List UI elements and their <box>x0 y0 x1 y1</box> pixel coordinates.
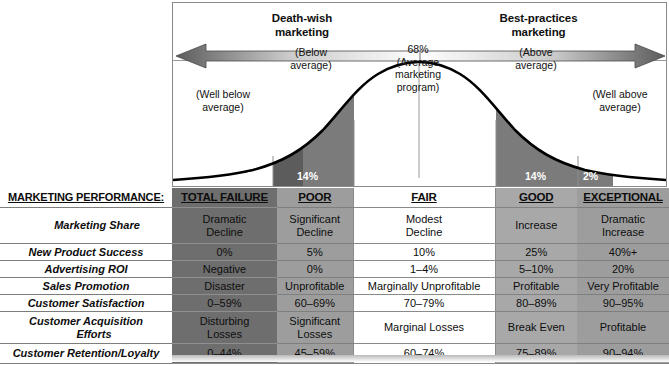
table-cell: DramaticDecline <box>172 208 277 244</box>
caption-center-percent: 68% <box>407 43 428 55</box>
caption-center-line2: (Average <box>397 56 439 68</box>
table-row: New Product Success0%5%10%25%40%+ <box>0 244 669 261</box>
caption-well-above-average: (Well above average) <box>571 88 667 113</box>
death-wish-line2: marketing <box>275 26 329 38</box>
table-cell: 40%+ <box>577 244 669 261</box>
row-label-line1: Customer Acquisition <box>0 315 172 328</box>
cell-line2: Losses <box>277 328 353 341</box>
table-body: MARKETING PERFORMANCE:TOTAL FAILUREPOORF… <box>0 188 669 364</box>
cell-line2: Decline <box>277 226 353 239</box>
table-cell: 90–95% <box>577 295 669 312</box>
table-cell: Profitable <box>577 312 669 344</box>
bell-curve-chart: Death-wish marketing Best-practices mark… <box>172 2 667 187</box>
row-label-customer-retention-loyalty: Customer Retention/Loyalty <box>0 344 172 364</box>
table-cell: Unprofitable <box>277 278 353 295</box>
row-label-sales-promotion: Sales Promotion <box>0 278 172 295</box>
best-practices-line1: Best-practices <box>500 12 578 24</box>
table-cell: 0–59% <box>172 295 277 312</box>
cell-line2: Decline <box>172 226 277 239</box>
table-cell: 1–4% <box>353 261 495 278</box>
cell-line2: Losses <box>172 328 277 341</box>
caption-above-average: (Above average) <box>493 46 579 71</box>
caption-average-marketing-program: 68% (Average marketing program) <box>359 43 477 93</box>
column-header-good: GOOD <box>495 188 577 208</box>
column-header-marketing-performance: MARKETING PERFORMANCE: <box>0 188 172 208</box>
table-cell: Very Profitable <box>577 278 669 295</box>
table-cell: Break Even <box>495 312 577 344</box>
table-cell: 5–10% <box>495 261 577 278</box>
table-cell: 0% <box>277 261 353 278</box>
table-cell: Disaster <box>172 278 277 295</box>
pct-label-far-left: 2% <box>247 170 262 182</box>
marketing-performance-figure: Death-wish marketing Best-practices mark… <box>0 0 669 366</box>
table-row: Sales PromotionDisasterUnprofitableMargi… <box>0 278 669 295</box>
cell-line1: Significant <box>277 213 353 226</box>
row-label-line2: Efforts <box>0 328 172 341</box>
death-wish-line1: Death-wish <box>272 12 332 24</box>
caption-center-line3: marketing <box>395 68 441 80</box>
caption-well-above-line1: (Well above <box>592 88 647 100</box>
table-cell: Profitable <box>495 278 577 295</box>
caption-below-line1: (Below <box>295 46 327 58</box>
column-header-label: FAIR <box>411 191 436 203</box>
cell-line2: Decline <box>354 226 495 239</box>
caption-well-below-line1: (Well below <box>196 88 250 100</box>
cell-line1: Disturbing <box>172 315 277 328</box>
best-practices-marketing-label: Best-practices marketing <box>441 12 636 39</box>
column-header-label: GOOD <box>519 191 553 203</box>
caption-well-above-line2: average) <box>599 101 640 113</box>
performance-matrix: MARKETING PERFORMANCE:TOTAL FAILUREPOORF… <box>0 188 669 364</box>
table-cell: Increase <box>495 208 577 244</box>
column-header-fair: FAIR <box>353 188 495 208</box>
caption-well-below-average: (Well below average) <box>173 88 273 113</box>
table-cell: 10% <box>353 244 495 261</box>
caption-center-line4: program) <box>397 81 440 93</box>
cell-line1: Dramatic <box>172 213 277 226</box>
column-header-label: TOTAL FAILURE <box>181 191 268 203</box>
row-label-marketing-share: Marketing Share <box>0 208 172 244</box>
pct-label-far-right: 2% <box>583 170 598 182</box>
row-label-new-product-success: New Product Success <box>0 244 172 261</box>
caption-above-line1: (Above <box>519 46 552 58</box>
caption-well-below-line2: average) <box>202 101 243 113</box>
table-row: Advertising ROINegative0%1–4%5–10%20% <box>0 261 669 278</box>
caption-above-line2: average) <box>515 59 556 71</box>
table-cell: 60–69% <box>277 295 353 312</box>
table-cell: Marginally Unprofitable <box>353 278 495 295</box>
table-cell: 20% <box>577 261 669 278</box>
marketing-performance-table: MARKETING PERFORMANCE:TOTAL FAILUREPOORF… <box>0 188 669 366</box>
table-row: Customer Satisfaction0–59%60–69%70–79%80… <box>0 295 669 312</box>
column-header-label: POOR <box>298 191 331 203</box>
table-cell: Negative <box>172 261 277 278</box>
column-header-exceptional: EXCEPTIONAL <box>577 188 669 208</box>
pct-label-left: 14% <box>297 170 318 182</box>
table-cell: 80–89% <box>495 295 577 312</box>
cell-line1: Dramatic <box>577 213 669 226</box>
row-label-advertising-roi: Advertising ROI <box>0 261 172 278</box>
cell-line1: Modest <box>354 213 495 226</box>
page-shadow <box>172 355 669 362</box>
table-cell: SignificantLosses <box>277 312 353 344</box>
table-cell: Marginal Losses <box>353 312 495 344</box>
table-row: Customer AcquisitionEffortsDisturbingLos… <box>0 312 669 344</box>
pct-label-right: 14% <box>525 170 546 182</box>
table-cell: SignificantDecline <box>277 208 353 244</box>
caption-below-line2: average) <box>290 59 331 71</box>
column-header-total-failure: TOTAL FAILURE <box>172 188 277 208</box>
column-header-poor: POOR <box>277 188 353 208</box>
table-cell: 70–79% <box>353 295 495 312</box>
table-cell: 0% <box>172 244 277 261</box>
death-wish-marketing-label: Death-wish marketing <box>207 12 397 39</box>
table-cell: 25% <box>495 244 577 261</box>
table-cell: ModestDecline <box>353 208 495 244</box>
best-practices-line2: marketing <box>511 26 565 38</box>
cell-line2: Increase <box>577 226 669 239</box>
cell-line1: Significant <box>277 315 353 328</box>
table-cell: DisturbingLosses <box>172 312 277 344</box>
table-row: Marketing ShareDramaticDeclineSignifican… <box>0 208 669 244</box>
row-label-customer-satisfaction: Customer Satisfaction <box>0 295 172 312</box>
column-header-label: EXCEPTIONAL <box>583 191 663 203</box>
table-cell: DramaticIncrease <box>577 208 669 244</box>
table-cell: 5% <box>277 244 353 261</box>
table-header-row: MARKETING PERFORMANCE:TOTAL FAILUREPOORF… <box>0 188 669 208</box>
